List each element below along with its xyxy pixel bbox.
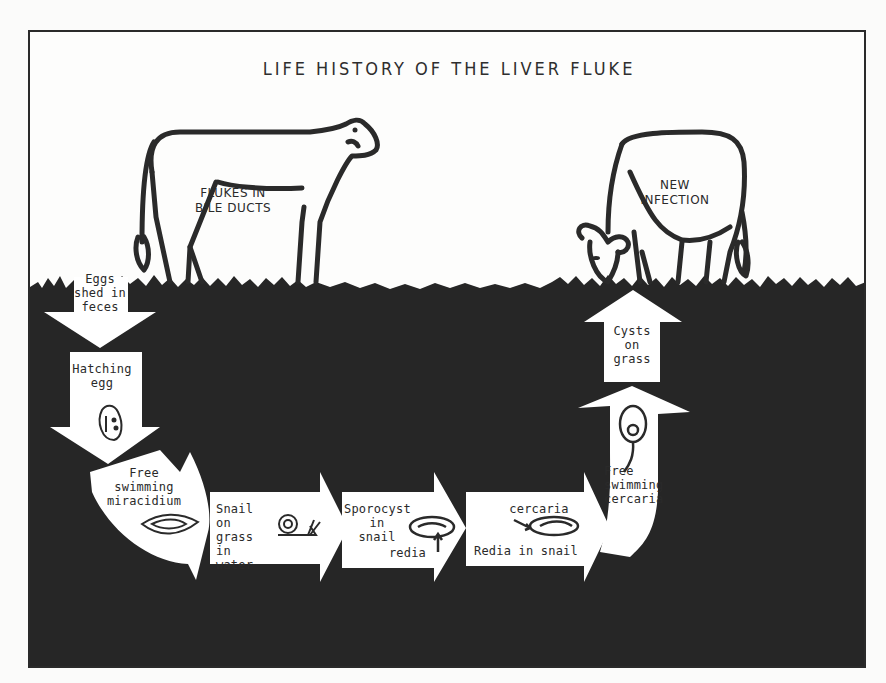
stage-sporocyst-label: Sporocyst in snail — [344, 502, 410, 544]
diagram-frame: LIFE HISTORY OF THE LIVER FLUKE FLUKES I… — [28, 30, 866, 668]
stage-cercaria-label: Free swimming cercaria — [604, 464, 664, 506]
page-title: LIFE HISTORY OF THE LIVER FLUKE — [30, 58, 866, 79]
stage-redia-sublabel: cercaria — [506, 502, 572, 516]
diagram-scene — [30, 32, 866, 668]
stage-hatching-label: Hatching egg — [52, 362, 152, 390]
stage-sporocyst-sublabel: redia — [370, 546, 426, 560]
cow-left-label: FLUKES IN BILE DUCTS — [188, 186, 278, 216]
cow-right-label: NEW INFECTION — [630, 178, 720, 208]
stage-cysts-label: Cysts on grass — [604, 324, 660, 366]
stage-miracidium-label: Free swimming miracidium — [94, 466, 194, 508]
stage-redia-label: Redia in snail — [468, 544, 584, 558]
stage-eggs-label: Eggs shed in feces — [50, 272, 150, 314]
stage-snail-label: Snail on grass in water — [216, 502, 272, 572]
